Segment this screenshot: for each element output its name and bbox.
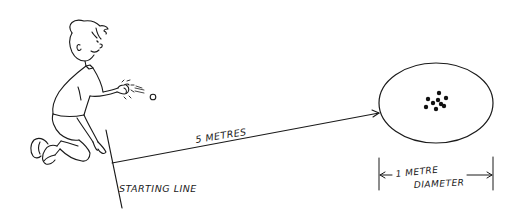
starting-line-label: STARTING LINE	[119, 183, 197, 194]
diagram-canvas: STARTING LINE 5 METRES 1 METRE DIAMETER	[0, 0, 520, 219]
diameter-label-line2: DIAMETER	[414, 177, 465, 190]
kneeling-boy-illustration	[31, 20, 156, 164]
target-circle	[379, 63, 493, 143]
starting-line	[106, 130, 122, 208]
diameter-label-line1: 1 METRE	[395, 165, 439, 179]
landing-dots	[424, 91, 448, 111]
